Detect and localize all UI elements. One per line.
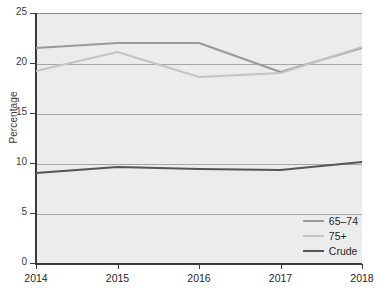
x-tick-mark: [281, 264, 282, 269]
y-tick-label: 10: [0, 156, 27, 167]
y-tick-mark: [30, 213, 35, 214]
y-tick-mark: [30, 263, 35, 264]
chart-legend: 65–7475+Crude: [301, 212, 362, 259]
y-axis-title: Percentage: [8, 73, 19, 163]
legend-line-swatch: [303, 220, 324, 222]
legend-item[interactable]: 65–74: [303, 214, 358, 227]
x-tick-mark: [362, 264, 363, 269]
x-tick-label: 2018: [332, 272, 378, 284]
y-tick-label: 25: [0, 6, 27, 17]
legend-label: Crude: [329, 245, 358, 257]
series-line-crude: [36, 162, 362, 173]
y-tick-label: 0: [0, 256, 27, 267]
y-tick-mark: [30, 113, 35, 114]
y-tick-mark: [30, 13, 35, 14]
legend-item[interactable]: 75+: [303, 229, 358, 242]
y-tick-label: 20: [0, 56, 27, 67]
x-tick-label: 2016: [169, 272, 229, 284]
x-tick-mark: [199, 264, 200, 269]
y-tick-mark: [30, 63, 35, 64]
y-tick-label: 15: [0, 106, 27, 117]
series-line-65-74: [36, 43, 362, 72]
legend-line-swatch: [303, 250, 324, 252]
legend-item[interactable]: Crude: [303, 244, 358, 257]
x-tick-label: 2015: [88, 272, 148, 284]
legend-label: 75+: [329, 230, 347, 242]
legend-line-swatch: [303, 235, 324, 237]
y-tick-label: 5: [0, 206, 27, 217]
x-tick-label: 2014: [6, 272, 66, 284]
series-line-75-: [36, 47, 362, 77]
legend-label: 65–74: [329, 215, 358, 227]
x-tick-label: 2017: [251, 272, 311, 284]
x-tick-mark: [36, 264, 37, 269]
x-tick-mark: [118, 264, 119, 269]
y-tick-mark: [30, 163, 35, 164]
